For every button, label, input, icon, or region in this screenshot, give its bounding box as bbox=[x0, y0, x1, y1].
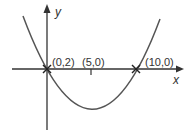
point-label-0-2: (0,2) bbox=[52, 56, 75, 68]
y-axis-label: y bbox=[54, 5, 62, 19]
x-axis-label: x bbox=[172, 73, 180, 87]
point-label-10-0: (10,0) bbox=[145, 56, 174, 68]
point-label-5-0: (5,0) bbox=[82, 56, 105, 68]
parabola-diagram: (0,2) (5,0) (10,0) y x bbox=[0, 0, 194, 133]
y-axis-arrow-icon bbox=[44, 4, 51, 13]
x-axis-arrow-icon bbox=[176, 66, 184, 73]
